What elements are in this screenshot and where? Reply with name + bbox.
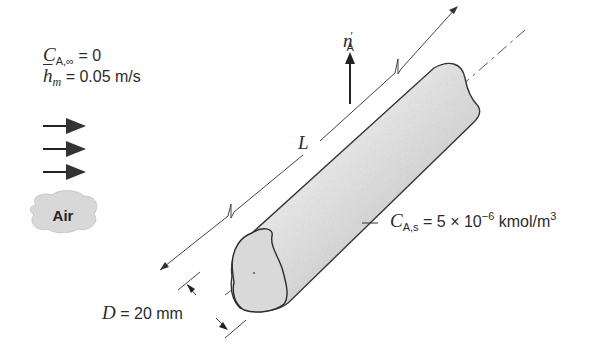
concentration-freestream-label: CA,∞ = 0: [43, 44, 101, 67]
length-arrowhead-end: [449, 6, 458, 14]
length-arrowhead-start: [160, 262, 169, 270]
flux-label: n′A: [343, 30, 354, 53]
mass-transfer-coefficient-label: hm = 0.05 m/s: [43, 65, 141, 90]
surface-concentration-label: CA,s = 5 × 10−6 kmol/m3: [390, 210, 556, 233]
flow-arrows: [43, 126, 84, 172]
length-label: L: [298, 132, 309, 154]
air-label: Air: [30, 200, 96, 232]
diameter-label: D = 20 mm: [102, 302, 183, 324]
